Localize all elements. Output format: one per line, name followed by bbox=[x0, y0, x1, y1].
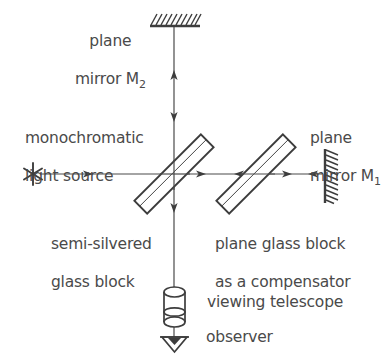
label-compensator-line1: plane glass block bbox=[215, 235, 345, 253]
viewing-telescope-icon bbox=[164, 287, 185, 327]
label-plane-mirror-m1-subscript: 1 bbox=[374, 175, 381, 188]
label-beamsplitter-line1: semi-silvered bbox=[51, 235, 152, 253]
label-plane-mirror-m2: plane mirror M2 bbox=[56, 13, 146, 109]
label-semi-silvered-glass-block: semi-silvered glass block bbox=[32, 216, 152, 311]
label-source-line2: light source bbox=[25, 167, 113, 185]
label-monochromatic-light-source: monochromatic light source bbox=[6, 110, 144, 205]
plane-mirror-m2-icon bbox=[150, 14, 201, 26]
label-plane-mirror-m1: plane mirror M1 bbox=[291, 110, 381, 206]
label-compensator-line2: as a compensator bbox=[215, 273, 351, 291]
label-plane-mirror-m1-line1: plane bbox=[310, 129, 352, 147]
label-plane-mirror-m1-line2: mirror M bbox=[310, 167, 374, 185]
label-observer: observer bbox=[206, 328, 273, 347]
label-plane-mirror-m2-line1: plane bbox=[89, 32, 131, 50]
observer-icon bbox=[160, 337, 189, 352]
label-beamsplitter-line2: glass block bbox=[51, 273, 135, 291]
label-plane-mirror-m2-subscript: 2 bbox=[139, 78, 146, 91]
label-source-line1: monochromatic bbox=[25, 129, 144, 147]
label-plane-mirror-m2-line2: mirror M bbox=[75, 70, 139, 88]
label-viewing-telescope: viewing telescope bbox=[207, 293, 343, 312]
